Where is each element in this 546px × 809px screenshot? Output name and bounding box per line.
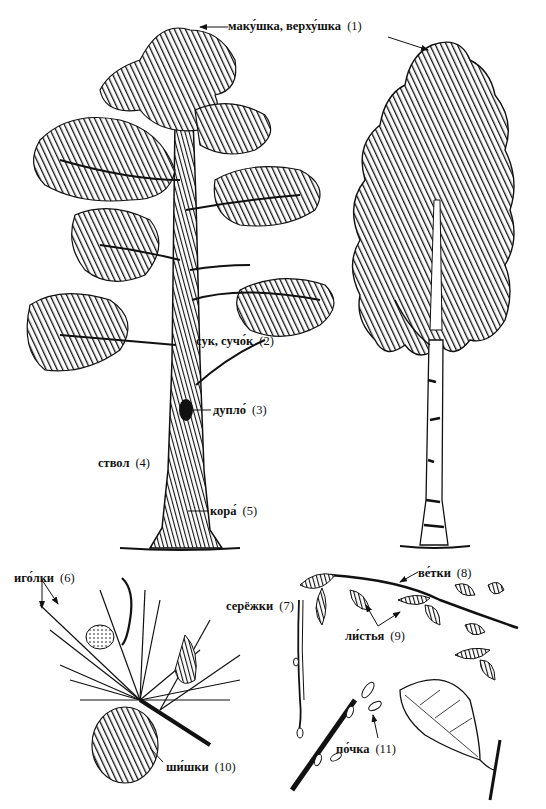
label-term: ли́стья — [345, 629, 384, 643]
label-hollow: дупло́(3) — [213, 404, 267, 417]
label-bark: кора́(5) — [210, 505, 257, 518]
tree-illustration — [0, 0, 546, 809]
label-needles: иго́лки(6) — [14, 572, 75, 585]
label-number: (5) — [243, 504, 258, 518]
birch-tree — [353, 42, 515, 548]
label-number: (3) — [252, 403, 267, 417]
bud-twig — [292, 680, 383, 790]
label-term: дупло́ — [213, 403, 246, 417]
pine-branch — [40, 578, 240, 783]
birch-branch — [300, 572, 518, 680]
label-term: ши́шки — [166, 760, 209, 774]
label-leaves: ли́стья(9) — [345, 630, 405, 643]
label-number: (11) — [375, 742, 395, 756]
birch-leaf — [400, 680, 500, 800]
label-term: по́чка — [336, 742, 369, 756]
label-term: маку́шка, верху́шка — [228, 19, 341, 33]
label-term: кора́ — [210, 504, 237, 518]
label-bough: сук, сучо́к(2) — [196, 335, 274, 348]
label-catkins: серёжки(7) — [226, 600, 294, 613]
label-number: (6) — [60, 571, 75, 585]
label-term: серёжки — [226, 599, 273, 613]
label-trunk: ствол(4) — [98, 457, 150, 470]
label-number: (1) — [347, 19, 362, 33]
label-twigs: ве́тки(8) — [418, 567, 471, 580]
catkin — [294, 600, 305, 738]
label-number: (8) — [457, 566, 472, 580]
label-term: иго́лки — [14, 571, 54, 585]
label-term: сук, сучо́к — [196, 334, 253, 348]
label-number: (9) — [390, 629, 405, 643]
label-number: (10) — [215, 760, 236, 774]
label-cones: ши́шки(10) — [166, 761, 236, 774]
label-crown-top: маку́шка, верху́шка(1) — [228, 20, 362, 33]
label-number: (4) — [135, 456, 150, 470]
label-number: (7) — [279, 599, 294, 613]
label-bud: по́чка(11) — [336, 743, 396, 756]
label-term: ве́тки — [418, 566, 451, 580]
label-term: ствол — [98, 456, 129, 470]
pine-tree — [27, 28, 334, 550]
label-number: (2) — [259, 334, 274, 348]
